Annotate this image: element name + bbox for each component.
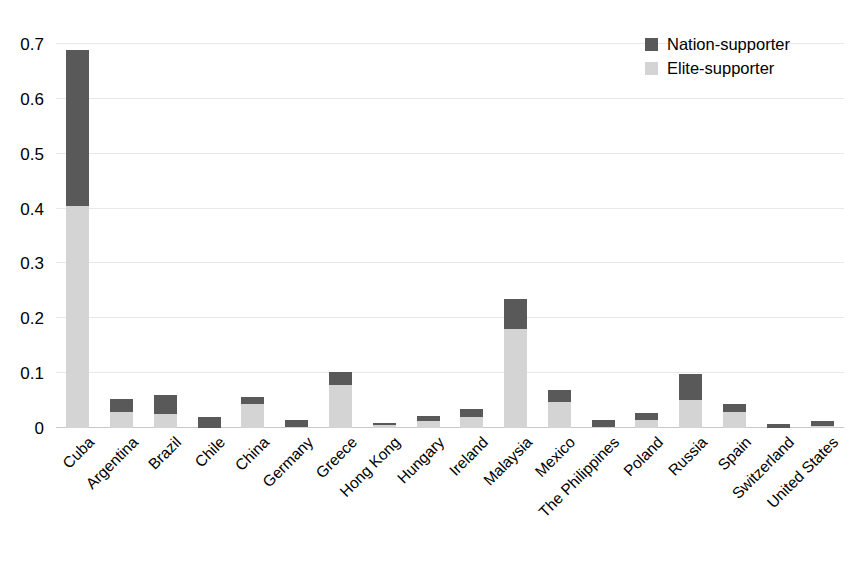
bar-segment-nation-supporter[interactable] (504, 299, 527, 329)
bar-segment-nation-supporter[interactable] (198, 417, 221, 428)
bar-segment-elite-supporter[interactable] (548, 402, 571, 428)
x-axis-tick-label: Chile (192, 434, 228, 470)
bar-slot (362, 44, 406, 428)
bar[interactable] (66, 50, 89, 429)
y-axis-tick-label: 0 (35, 420, 44, 437)
bar-segment-nation-supporter[interactable] (811, 421, 834, 426)
bar-segment-nation-supporter[interactable] (723, 404, 746, 412)
stacked-bar-chart: 00.10.20.30.40.50.60.7 CubaArgentinaBraz… (0, 0, 859, 566)
bar-segment-elite-supporter[interactable] (66, 206, 89, 428)
bar[interactable] (679, 374, 702, 428)
bar-segment-nation-supporter[interactable] (417, 416, 440, 421)
bar-slot (713, 44, 757, 428)
bar-slot (231, 44, 275, 428)
y-axis-tick-label: 0.6 (20, 90, 44, 107)
bar-segment-elite-supporter[interactable] (110, 412, 133, 428)
bar[interactable] (723, 404, 746, 428)
bar-segment-nation-supporter[interactable] (66, 50, 89, 206)
bar-slot (669, 44, 713, 428)
bar[interactable] (811, 421, 834, 428)
x-axis-tick-label: Spain (715, 434, 754, 473)
legend-item[interactable]: Elite-supporter (645, 57, 845, 79)
x-axis-tick-label: Hungary (395, 434, 448, 487)
y-axis: 00.10.20.30.40.50.60.7 (0, 44, 52, 428)
bar-slot (319, 44, 363, 428)
bar[interactable] (241, 397, 264, 428)
y-axis-tick-label: 0.5 (20, 145, 44, 162)
bar-segment-elite-supporter[interactable] (460, 417, 483, 428)
bar-segment-nation-supporter[interactable] (285, 420, 308, 427)
y-axis-tick-label: 0.3 (20, 255, 44, 272)
bar[interactable] (592, 420, 615, 428)
y-axis-tick-label: 0.4 (20, 200, 44, 217)
bar-slot (756, 44, 800, 428)
bar[interactable] (329, 372, 352, 428)
x-axis-tick-label: Poland (621, 434, 666, 479)
bar-slot (56, 44, 100, 428)
bar-slot (800, 44, 844, 428)
bar-segment-nation-supporter[interactable] (635, 413, 658, 420)
bar[interactable] (417, 416, 440, 428)
bar-segment-elite-supporter[interactable] (154, 414, 177, 428)
x-axis-tick-label: The Philippines (536, 434, 622, 520)
y-axis-tick-label: 0.7 (20, 36, 44, 53)
legend-swatch-icon (645, 38, 658, 51)
x-axis-tick-label: Russia (665, 434, 710, 479)
bar-segment-elite-supporter[interactable] (329, 385, 352, 428)
bar[interactable] (198, 417, 221, 428)
bar-segment-elite-supporter[interactable] (635, 420, 658, 428)
bar-slot (494, 44, 538, 428)
bar-segment-nation-supporter[interactable] (592, 420, 615, 427)
bar[interactable] (460, 409, 483, 428)
bar-segment-nation-supporter[interactable] (679, 374, 702, 400)
x-axis-tick-label: China (232, 434, 272, 474)
bar-slot (450, 44, 494, 428)
bar-slot (406, 44, 450, 428)
legend-swatch-icon (645, 62, 658, 75)
bar-slot (581, 44, 625, 428)
bar-segment-nation-supporter[interactable] (373, 423, 396, 425)
bar-segment-nation-supporter[interactable] (548, 390, 571, 402)
bar-slot (625, 44, 669, 428)
bar-slot (538, 44, 582, 428)
x-axis-labels: CubaArgentinaBrazilChileChinaGermanyGree… (56, 428, 844, 566)
bar[interactable] (635, 413, 658, 428)
bar-segment-nation-supporter[interactable] (154, 395, 177, 414)
legend-item[interactable]: Nation-supporter (645, 33, 845, 55)
bars-layer (56, 44, 844, 428)
bar-segment-nation-supporter[interactable] (241, 397, 264, 404)
chart-legend: Nation-supporterElite-supporter (645, 33, 845, 81)
y-axis-tick-label: 0.2 (20, 310, 44, 327)
legend-label: Nation-supporter (667, 36, 790, 53)
bar-slot (187, 44, 231, 428)
bar-segment-elite-supporter[interactable] (504, 329, 527, 428)
bar[interactable] (548, 390, 571, 428)
bar[interactable] (504, 299, 527, 428)
bar-slot (275, 44, 319, 428)
bar-segment-elite-supporter[interactable] (679, 400, 702, 428)
bar-segment-nation-supporter[interactable] (460, 409, 483, 417)
bar[interactable] (285, 420, 308, 428)
plot-area (56, 44, 844, 428)
bar-slot (144, 44, 188, 428)
bar[interactable] (154, 395, 177, 428)
y-axis-tick-label: 0.1 (20, 365, 44, 382)
legend-label: Elite-supporter (667, 60, 774, 77)
x-axis-tick-label: Brazil (146, 434, 185, 473)
x-axis-tick-label: Cuba (60, 434, 98, 472)
bar-segment-nation-supporter[interactable] (329, 372, 352, 385)
bar-slot (100, 44, 144, 428)
bar-segment-elite-supporter[interactable] (241, 404, 264, 428)
bar-segment-elite-supporter[interactable] (723, 412, 746, 428)
bar-segment-nation-supporter[interactable] (110, 399, 133, 411)
bar[interactable] (110, 399, 133, 428)
bar-segment-elite-supporter[interactable] (417, 421, 440, 428)
